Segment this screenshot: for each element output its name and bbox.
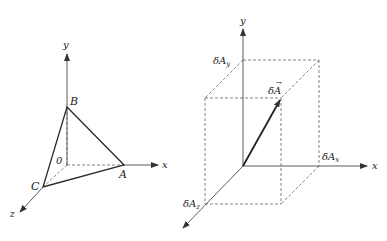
left-y-label: y xyxy=(62,39,69,50)
point-C-label: C xyxy=(31,180,40,193)
triangle-ABC xyxy=(43,107,124,187)
origin-label: 0 xyxy=(56,155,63,166)
vector-arrow-glyph: → xyxy=(276,79,282,87)
diagram-canvas: y x z 0 B A C y x δA → δAy δAx δAz xyxy=(0,0,387,241)
vector-dA xyxy=(243,100,280,166)
component-y-label: δAy xyxy=(213,55,231,68)
left-x-label: x xyxy=(162,159,168,170)
right-x-label: x xyxy=(372,160,378,171)
left-figure: y x z 0 B A C xyxy=(9,39,168,219)
point-A-label: A xyxy=(118,168,127,181)
point-B-label: B xyxy=(69,95,78,108)
right-y-label: y xyxy=(239,15,246,26)
right-z-axis xyxy=(183,166,243,228)
right-figure: y x δA → δAy δAx δAz xyxy=(183,15,378,228)
left-z-label: z xyxy=(9,209,15,219)
component-x-label: δAx xyxy=(322,151,339,164)
component-z-label: δAz xyxy=(183,198,200,211)
